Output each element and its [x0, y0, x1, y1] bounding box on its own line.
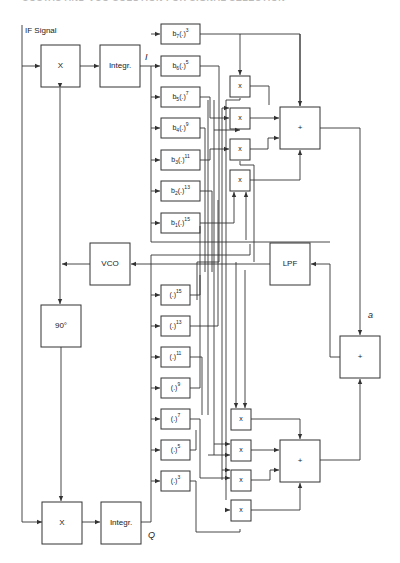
- q-summer-to-final: [320, 379, 360, 460]
- nonlinear-block-b3-eleventh: b3(.)11: [161, 150, 200, 170]
- i-multiplier-3: x: [230, 139, 250, 160]
- svg-text:LPF: LPF: [283, 259, 298, 268]
- if-signal-label: IF Signal: [25, 26, 57, 35]
- svg-text:Integr.: Integr.: [110, 518, 132, 527]
- i-integrator-block: Integr.: [100, 45, 140, 87]
- b4-cross-line: [200, 128, 205, 272]
- b5-to-mult2: [200, 97, 229, 118]
- qmult4-to-summer: [251, 483, 300, 510]
- nonlinear-block-b1-fifteenth: b1(.)15: [161, 213, 200, 233]
- svg-text:x: x: [239, 506, 243, 513]
- i-summer-to-final: [320, 128, 360, 335]
- nonlinear-block-b7-cubed: b7(.)3: [161, 24, 200, 44]
- nonlinear-block-b5-seventh: b5(.)7: [161, 87, 200, 107]
- mult4-to-summer: [250, 150, 300, 180]
- power-block-3: (.)3: [161, 471, 190, 491]
- nonlinear-block-b2-thirteenth: b2(.)13: [161, 181, 200, 201]
- svg-text:x: x: [238, 176, 242, 183]
- svg-text:VCO: VCO: [101, 259, 118, 268]
- nonlinear-block-b6-fifth: b6(.)5: [161, 56, 200, 76]
- svg-text:x: x: [239, 476, 243, 483]
- svg-text:x: x: [238, 114, 242, 121]
- svg-text:90°: 90°: [55, 321, 67, 330]
- q-multiplier-2: x: [231, 440, 251, 461]
- svg-text:X: X: [59, 518, 65, 527]
- i-summer-block: +: [280, 107, 320, 149]
- svg-text:x: x: [239, 446, 243, 453]
- costas-loop-block-diagram: IF Signal X Integr. I b7(.)3 b6(.)5 b5(.…: [0, 0, 400, 563]
- power-block-11: (.)11: [161, 347, 190, 367]
- qmult3-to-summer: [251, 470, 279, 480]
- i-multiplier-2: x: [230, 108, 250, 129]
- q-output-label: Q: [148, 530, 155, 540]
- i-integrator-label: Integr.: [109, 61, 131, 70]
- i-output-label: I: [145, 52, 148, 62]
- b2-cross-line: [200, 191, 212, 272]
- svg-text:x: x: [238, 82, 242, 89]
- i-mixer-label: X: [58, 61, 64, 70]
- b7-to-mult1: [200, 34, 240, 75]
- i-multiplier-1: x: [230, 76, 250, 97]
- q-multiplier-3: x: [231, 470, 251, 491]
- svg-text:x: x: [239, 415, 243, 422]
- svg-text:+: +: [298, 123, 303, 132]
- q-summer-block: +: [280, 440, 320, 482]
- nonlinear-block-b4-ninth: b4(.)9: [161, 118, 200, 138]
- power-block-15: (.)15: [161, 285, 190, 305]
- final-summer-block: +: [340, 336, 380, 378]
- q-mixer-block: X: [42, 502, 82, 544]
- p5-line: [190, 430, 196, 450]
- svg-text:+: +: [298, 456, 303, 465]
- lpf-block: LPF: [270, 243, 310, 285]
- p15-line: [190, 226, 200, 295]
- bus4-to-mult1-bottom: [226, 98, 240, 100]
- power-block-9: (.)9: [161, 378, 190, 398]
- i-mixer-block: X: [41, 45, 80, 87]
- error-signal-label: a: [368, 310, 373, 320]
- qmult1-to-summer: [251, 419, 300, 439]
- final-summer-to-lpf: [311, 264, 340, 357]
- mult3-to-summer: [250, 138, 279, 149]
- vco-block: VCO: [90, 243, 130, 285]
- i-multiplier-4: x: [230, 170, 250, 191]
- phase-shift-90-block: 90°: [41, 305, 81, 347]
- svg-text:x: x: [238, 145, 242, 152]
- q-multiplier-4: x: [231, 500, 251, 521]
- power-block-13: (.)13: [161, 316, 190, 336]
- mult1-to-summer: [250, 86, 269, 105]
- q-integrator-block: Integr.: [101, 502, 141, 544]
- svg-text:+: +: [358, 352, 363, 361]
- b3-to-mult3: [200, 149, 229, 160]
- power-block-5: (.)5: [161, 440, 190, 460]
- q-multiplier-1: x: [231, 409, 251, 430]
- power-block-7: (.)7: [161, 409, 190, 429]
- p9-line: [190, 275, 200, 388]
